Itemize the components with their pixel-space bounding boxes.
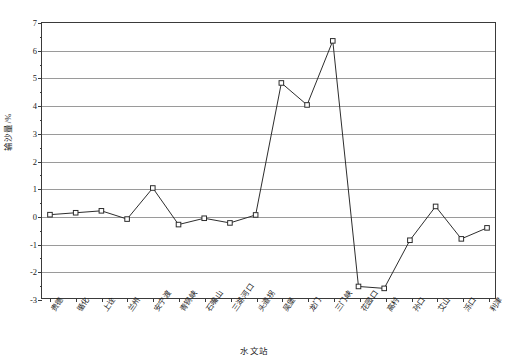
x-tick-mark <box>308 298 309 302</box>
data-point-marker <box>356 284 361 289</box>
y-axis-title: 输沙量/% <box>4 97 13 167</box>
data-point-marker <box>202 216 207 221</box>
data-point-marker <box>459 237 464 242</box>
data-point-marker <box>485 226 490 231</box>
x-tick-label: 贵德 <box>50 309 56 313</box>
data-point-marker <box>253 213 258 218</box>
x-tick-label: 上诠 <box>102 309 108 313</box>
data-point-marker <box>433 204 438 209</box>
data-point-marker <box>99 209 104 214</box>
x-tick-mark <box>437 298 438 302</box>
x-axis-title: 水文站 <box>0 344 509 356</box>
x-tick-mark <box>179 298 180 302</box>
data-point-marker <box>125 217 130 222</box>
x-tick-label: 兰州 <box>127 309 133 313</box>
y-tick-label: 4 <box>33 101 37 111</box>
x-tick-mark <box>412 298 413 302</box>
data-point-marker <box>382 286 387 291</box>
x-tick-label: 青铜峡 <box>179 309 185 313</box>
x-tick-mark <box>102 298 103 302</box>
data-point-marker <box>48 212 53 217</box>
x-tick-label: 三门峡 <box>334 309 340 313</box>
series-line <box>50 41 487 289</box>
data-point-marker <box>228 221 233 226</box>
y-tick-label: -3 <box>30 295 37 305</box>
x-tick-label: 泺口 <box>463 309 469 313</box>
data-point-marker <box>330 39 335 44</box>
x-tick-label: 龙门 <box>308 309 314 313</box>
x-tick-mark <box>334 298 335 302</box>
x-tick-label: 艾山 <box>437 309 443 313</box>
x-tick-mark <box>50 298 51 302</box>
x-tick-mark <box>231 298 232 302</box>
y-tick-mark <box>38 300 42 301</box>
x-tick-mark <box>489 298 490 302</box>
plot-area: 76543210-1-2-3 <box>41 22 496 299</box>
x-tick-label: 循化 <box>76 309 82 313</box>
x-tick-mark <box>282 298 283 302</box>
x-tick-label: 利津 <box>489 309 495 313</box>
y-tick-label: 0 <box>33 212 37 222</box>
x-tick-label: 高村 <box>386 309 392 313</box>
x-tick-mark <box>386 298 387 302</box>
x-tick-label: 吴堡 <box>282 309 288 313</box>
x-tick-label: 安宁渡 <box>153 309 159 313</box>
data-point-marker <box>73 210 78 215</box>
x-tick-mark <box>127 298 128 302</box>
y-tick-label: 7 <box>33 18 37 28</box>
chart-container: 输沙量/% 76543210-1-2-3 贵德循化上诠兰州安宁渡青铜峡石嘴山三湖… <box>0 0 509 364</box>
x-tick-label: 石嘴山 <box>205 309 211 313</box>
x-tick-mark <box>205 298 206 302</box>
x-tick-label: 孙口 <box>411 309 417 313</box>
data-point-marker <box>176 222 181 227</box>
x-tick-mark <box>360 298 361 302</box>
data-point-marker <box>279 81 284 86</box>
y-tick-label: 2 <box>33 157 37 167</box>
x-tick-label: 花园口 <box>360 309 366 313</box>
data-series <box>42 23 495 298</box>
x-tick-mark <box>153 298 154 302</box>
x-tick-label: 头道拐 <box>256 309 262 313</box>
y-tick-label: 5 <box>33 73 37 83</box>
y-tick-label: 6 <box>33 46 37 56</box>
data-point-marker <box>408 238 413 243</box>
x-tick-label: 三湖河口 <box>231 309 237 313</box>
y-tick-label: 3 <box>33 129 37 139</box>
y-tick-label: 1 <box>33 184 37 194</box>
x-tick-mark <box>76 298 77 302</box>
y-tick-label: -2 <box>30 267 37 277</box>
data-point-marker <box>305 103 310 108</box>
x-tick-mark <box>257 298 258 302</box>
y-tick-label: -1 <box>30 240 37 250</box>
data-point-marker <box>151 186 156 191</box>
x-tick-mark <box>463 298 464 302</box>
